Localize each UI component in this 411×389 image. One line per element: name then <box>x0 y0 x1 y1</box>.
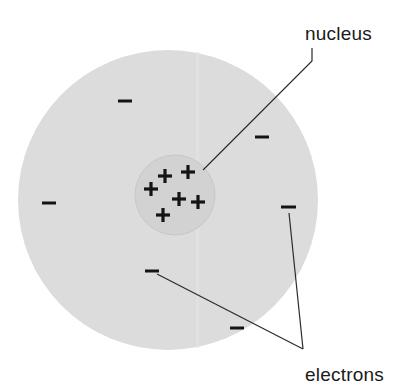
electrons-label: electrons <box>305 364 384 385</box>
atom-diagram-canvas: nucleus electrons <box>0 0 411 389</box>
nucleus-region <box>135 155 215 235</box>
atom-diagram: nucleus electrons <box>0 0 411 389</box>
nucleus-label: nucleus <box>305 23 372 44</box>
